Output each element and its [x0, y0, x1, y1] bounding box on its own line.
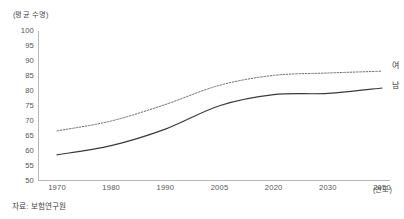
y-tick-60: 60: [25, 147, 34, 155]
series-path-남: [57, 88, 382, 155]
y-tick-75: 75: [25, 102, 34, 110]
series-label-female: 여: [392, 62, 399, 70]
y-tick-100: 100: [21, 27, 34, 35]
series-path-여: [57, 71, 382, 131]
plot-area: [38, 31, 390, 181]
y-tick-70: 70: [25, 117, 34, 125]
source-note: 자료: 보험연구원: [12, 200, 66, 211]
y-tick-80: 80: [25, 87, 34, 95]
y-tick-55: 55: [25, 162, 34, 170]
x-tick-2005: 2005: [211, 184, 229, 192]
y-tick-85: 85: [25, 72, 34, 80]
x-axis-unit-label: (연도): [373, 184, 392, 194]
x-tick-1990: 1990: [156, 184, 174, 192]
y-tick-90: 90: [25, 57, 34, 65]
y-axis-tick-labels: 10095908580757065605550: [12, 31, 34, 181]
x-tick-2030: 2030: [319, 184, 337, 192]
life-expectancy-chart-figure: (평균 수명) 10095908580757065605550 19701980…: [0, 0, 404, 219]
x-axis-tick-labels: 1970198019902005202020302050: [38, 184, 390, 196]
x-tick-2020: 2020: [265, 184, 283, 192]
y-tick-95: 95: [25, 42, 34, 50]
y-axis-unit-label: (평균 수명): [13, 9, 48, 19]
series-label-male: 남: [392, 82, 399, 90]
y-tick-65: 65: [25, 132, 34, 140]
x-tick-1970: 1970: [48, 184, 66, 192]
x-tick-1980: 1980: [102, 184, 120, 192]
y-tick-50: 50: [25, 177, 34, 185]
series-lines: [38, 31, 390, 181]
